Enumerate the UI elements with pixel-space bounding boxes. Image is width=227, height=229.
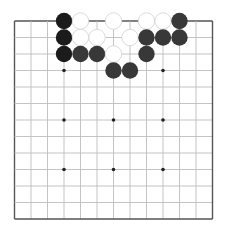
star-point (62, 69, 66, 73)
black-stone[interactable] (138, 46, 154, 62)
black-stone[interactable] (171, 13, 187, 29)
go-board[interactable] (0, 0, 227, 229)
white-stone[interactable] (122, 29, 138, 45)
white-stone[interactable] (72, 29, 88, 45)
black-stone[interactable] (89, 46, 105, 62)
black-stone[interactable] (56, 29, 72, 45)
white-stone[interactable] (105, 13, 121, 29)
star-point (161, 168, 165, 172)
black-stone[interactable] (56, 46, 72, 62)
star-point (62, 168, 66, 172)
star-point (62, 118, 66, 122)
black-stone[interactable] (72, 46, 88, 62)
white-stone[interactable] (89, 29, 105, 45)
white-stone[interactable] (155, 13, 171, 29)
star-point (161, 118, 165, 122)
star-point (161, 69, 165, 73)
star-point (112, 168, 116, 172)
white-stone[interactable] (138, 13, 154, 29)
black-stone[interactable] (105, 62, 121, 78)
black-stone[interactable] (56, 13, 72, 29)
black-stone[interactable] (171, 29, 187, 45)
star-point (112, 118, 116, 122)
white-stone[interactable] (72, 13, 88, 29)
black-stone[interactable] (155, 29, 171, 45)
black-stone[interactable] (138, 29, 154, 45)
black-stone[interactable] (122, 62, 138, 78)
white-stone[interactable] (105, 46, 121, 62)
stones-layer (56, 13, 188, 79)
